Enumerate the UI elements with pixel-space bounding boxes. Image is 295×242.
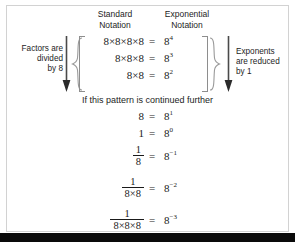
equation-left-side: 8×8×8 [60, 52, 144, 64]
equals-sign: = [144, 214, 160, 226]
equation-left-side: 8 [60, 110, 144, 122]
equation-right-side: 84 [160, 35, 204, 47]
equation-left-side: 8×8 [60, 69, 144, 81]
fraction-numerator: 1 [127, 176, 138, 187]
heading-standard-notation: Standard Notation [84, 9, 146, 30]
fraction-numerator: 1 [133, 144, 144, 155]
fraction-denominator: 8 [133, 155, 144, 167]
power-exponent: 2 [170, 68, 174, 76]
fraction: 1 8 [133, 144, 144, 167]
down-arrow-right-icon [224, 36, 233, 92]
fraction-numerator: 1 [122, 208, 133, 219]
power-exponent: −1 [170, 149, 177, 157]
equation-left-side: 1 8×8×8 [60, 208, 144, 231]
equals-sign: = [144, 35, 160, 47]
equation-right-side: 82 [160, 69, 204, 81]
fraction-denominator: 8×8 [122, 187, 144, 199]
equation-right-side: 8−2 [160, 182, 204, 194]
equation-right-side: 8−1 [160, 150, 204, 162]
equation-right-side: 81 [160, 110, 204, 122]
equation-row: 8×8 = 82 [60, 69, 206, 81]
equation-row: 1 = 80 [60, 127, 206, 139]
equation-left-side: 1 8 [60, 144, 144, 167]
annotation-factors-divided: Factors are divided by 8 [5, 44, 63, 75]
equation-row: 1 8×8 = 8−2 [60, 176, 206, 199]
equation-block-top: 8×8×8×8 = 84 8×8×8 = 83 8×8 = 82 [60, 35, 206, 86]
equation-row: 1 8 = 8−1 [60, 144, 206, 167]
equation-row: 1 8×8×8 = 8−3 [60, 208, 206, 231]
fraction-denominator: 8×8×8 [110, 219, 144, 231]
bottom-black-band [0, 233, 295, 242]
power-exponent: 1 [170, 109, 174, 117]
power-exponent: 0 [170, 126, 174, 134]
fraction: 1 8×8 [122, 176, 144, 199]
annotation-exponents-reduced: Exponents are reduced by 1 [236, 47, 292, 78]
pattern-sentence: If this pattern is continued further [0, 95, 295, 105]
equals-sign: = [144, 150, 160, 162]
heading-exponential-notation: Exponential Notation [150, 9, 224, 30]
equation-block-bottom: 8 = 81 1 = 80 1 8 = 8−1 1 8×8 = 8−2 [60, 110, 206, 240]
power-exponent: 4 [170, 34, 174, 42]
equation-row: 8×8×8 = 83 [60, 52, 206, 64]
power-exponent: −3 [170, 213, 177, 221]
equals-sign: = [144, 182, 160, 194]
curly-brace-right-icon [209, 37, 221, 91]
fraction: 1 8×8×8 [110, 208, 144, 231]
equals-sign: = [144, 69, 160, 81]
equals-sign: = [144, 110, 160, 122]
equation-left-side: 8×8×8×8 [60, 35, 144, 47]
equals-sign: = [144, 52, 160, 64]
column-headings: Standard Notation Exponential Notation [84, 9, 224, 30]
equation-left-side: 1 8×8 [60, 176, 144, 199]
power-exponent: 3 [170, 51, 174, 59]
equation-right-side: 80 [160, 127, 204, 139]
equation-left-side: 1 [60, 127, 144, 139]
equation-right-side: 83 [160, 52, 204, 64]
equation-row: 8×8×8×8 = 84 [60, 35, 206, 47]
equation-row: 8 = 81 [60, 110, 206, 122]
equals-sign: = [144, 127, 160, 139]
equation-right-side: 8−3 [160, 214, 204, 226]
power-exponent: −2 [170, 181, 177, 189]
